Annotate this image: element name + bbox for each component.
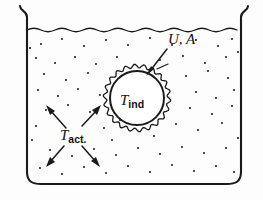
stipple-dot	[171, 164, 173, 166]
stipple-dot	[116, 56, 118, 58]
stipple-dot	[227, 77, 229, 79]
stipple-dot	[54, 62, 56, 64]
stipple-dot	[231, 38, 233, 40]
stipple-dot	[204, 62, 206, 64]
stipple-dot	[87, 72, 89, 74]
label-t-ind-subscript: ind	[128, 98, 144, 110]
stipple-dot	[115, 154, 117, 156]
stipple-dot	[217, 45, 219, 47]
label-t-act: Tact.	[60, 127, 87, 145]
stipple-dot	[185, 75, 187, 77]
stipple-dot	[149, 37, 151, 39]
stipple-dot	[29, 47, 31, 49]
stipple-dot	[127, 165, 129, 167]
stipple-dot	[61, 173, 63, 175]
stipple-dot	[182, 55, 184, 57]
stipple-dot	[237, 51, 239, 53]
stipple-dot	[31, 139, 33, 141]
liquid-surface-line	[27, 28, 237, 32]
stipple-dot	[61, 38, 63, 40]
stipple-dot	[43, 73, 45, 75]
stipple-dot	[195, 39, 197, 41]
hatch-line	[151, 112, 208, 169]
diagram-canvas: U, A Tind Tact.	[0, 0, 263, 200]
stipple-dot	[225, 147, 227, 149]
stipple-dot	[71, 155, 73, 157]
stipple-dot	[35, 57, 37, 59]
stipple-dot	[111, 139, 113, 141]
stipple-dot	[105, 172, 107, 174]
stipple-dot	[207, 70, 209, 72]
stipple-dot	[99, 94, 101, 96]
stipple-dot	[137, 147, 139, 149]
stipple-dot	[45, 109, 47, 111]
stipple-dot	[37, 89, 39, 91]
leader-arrow	[146, 49, 168, 76]
stipple-dot	[233, 89, 235, 91]
stipple-dot	[181, 146, 183, 148]
stipple-dot	[35, 125, 37, 127]
stipple-dot	[40, 43, 42, 45]
diagram-svg: U, A Tind Tact.	[0, 0, 263, 200]
stipple-dot	[95, 63, 97, 65]
stipple-dot	[103, 127, 105, 129]
stipple-dot	[153, 135, 155, 137]
stipple-dot	[83, 45, 85, 47]
stipple-dot	[105, 39, 107, 41]
stipple-dot	[215, 165, 217, 167]
leader-crossing-tick	[157, 64, 168, 69]
stipple-dot	[197, 129, 199, 131]
stipple-dot	[211, 113, 213, 115]
stipple-dot	[67, 104, 69, 106]
stipple-dot	[175, 123, 177, 125]
stipple-dot	[159, 153, 161, 155]
stipple-dot	[195, 91, 197, 93]
stipple-dot	[225, 56, 227, 58]
stipple-dot	[233, 171, 235, 173]
liquid-surface	[27, 28, 237, 32]
stipple-dot	[39, 167, 41, 169]
stipple-dot	[74, 56, 76, 58]
stipple-dot	[57, 95, 59, 97]
hatch-line	[63, 24, 120, 81]
stipple-dot	[149, 171, 151, 173]
stipple-dot	[215, 97, 217, 99]
stipple-dot	[89, 111, 91, 113]
stipple-dot	[237, 137, 239, 139]
hatch-line	[66, 27, 123, 84]
stipple-dot	[193, 170, 195, 172]
stipple-dot	[49, 149, 51, 151]
stipple-dot	[189, 107, 191, 109]
label-u-a: U, A	[168, 31, 196, 47]
stipple-dot	[65, 79, 67, 81]
stipple-dot	[93, 148, 95, 150]
stipple-dot	[221, 122, 223, 124]
stipple-dot	[83, 166, 85, 168]
stipple-dot	[77, 88, 79, 90]
hatch-line	[154, 115, 211, 172]
label-t-act-subscript: act.	[68, 133, 86, 145]
stipple-dot	[203, 152, 205, 154]
stipple-dot	[127, 44, 129, 46]
stipple-dot	[231, 105, 233, 107]
